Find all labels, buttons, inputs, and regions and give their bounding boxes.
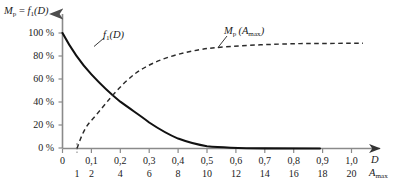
x-tick2-label-14: 14 xyxy=(251,169,279,179)
x-tick2-label-10: 10 xyxy=(193,169,221,179)
x-tick2-label-6: 6 xyxy=(135,169,163,179)
x-tick-label-0-9: 0,9 xyxy=(309,156,337,166)
leader-line-mp xyxy=(218,36,227,48)
x-tick-label-0-8: 0,8 xyxy=(280,156,308,166)
curve-label-f1-d: f1(D) xyxy=(103,30,124,41)
x-tick-label-0-4: 0,4 xyxy=(164,156,192,166)
x-tick-label-0-2: 0,2 xyxy=(106,156,134,166)
x-tick2-label-2: 2 xyxy=(77,169,105,179)
curve-label-mp-amax: Mp (Amax) xyxy=(224,26,264,37)
y-tick-label-80: 80 % xyxy=(0,51,54,61)
y-tick-label-100: 100 % xyxy=(0,28,54,38)
x-tick-label-0-6: 0,6 xyxy=(222,156,250,166)
curve-mp-amax xyxy=(77,43,363,148)
x-tick2-label-4: 4 xyxy=(106,169,134,179)
x-tick-label-0-5: 0,5 xyxy=(193,156,221,166)
x-tick-label-1-0: 1,0 xyxy=(338,156,366,166)
x-tick-label-0-1: 0,1 xyxy=(77,156,105,166)
y-tick-label-40: 40 % xyxy=(0,97,54,107)
chart-figure: Mp = f1(D) 100 % 80 % 60 % 40 % 20 % 0 %… xyxy=(0,0,399,192)
x-tick2-label-8: 8 xyxy=(164,169,192,179)
x-tick2-label-12: 12 xyxy=(222,169,250,179)
y-tick-label-0: 0 % xyxy=(0,143,54,153)
x-tick-label-0-7: 0,7 xyxy=(251,156,279,166)
x-tick-label-0: 0 xyxy=(49,156,77,166)
y-tick-label-20: 20 % xyxy=(0,120,54,130)
x-tick2-label-16: 16 xyxy=(280,169,308,179)
x-tick2-label-18: 18 xyxy=(309,169,337,179)
x-axis-title-d: D xyxy=(371,155,379,166)
y-axis-title: Mp = f1(D) xyxy=(4,6,49,17)
x-axis-title-amax: Amax xyxy=(369,168,388,179)
y-tick-label-60: 60 % xyxy=(0,74,54,84)
x-tick2-label-20: 20 xyxy=(338,169,366,179)
x-tick-label-0-3: 0,3 xyxy=(135,156,163,166)
curve-f1-d xyxy=(63,33,321,149)
